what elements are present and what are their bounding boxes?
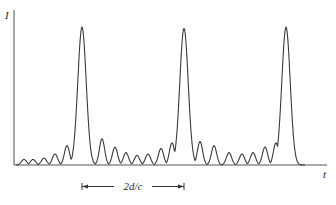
arrow-right-icon bbox=[178, 185, 184, 189]
intensity-curve bbox=[16, 27, 305, 165]
interval-annotation: 2d/c bbox=[82, 180, 184, 192]
x-axis-label: t bbox=[323, 168, 327, 180]
y-axis-label: I bbox=[4, 9, 10, 21]
arrow-left-icon bbox=[82, 185, 88, 189]
interval-label: 2d/c bbox=[124, 180, 143, 192]
pulse-train-figure: I t 2d/c bbox=[0, 0, 336, 205]
